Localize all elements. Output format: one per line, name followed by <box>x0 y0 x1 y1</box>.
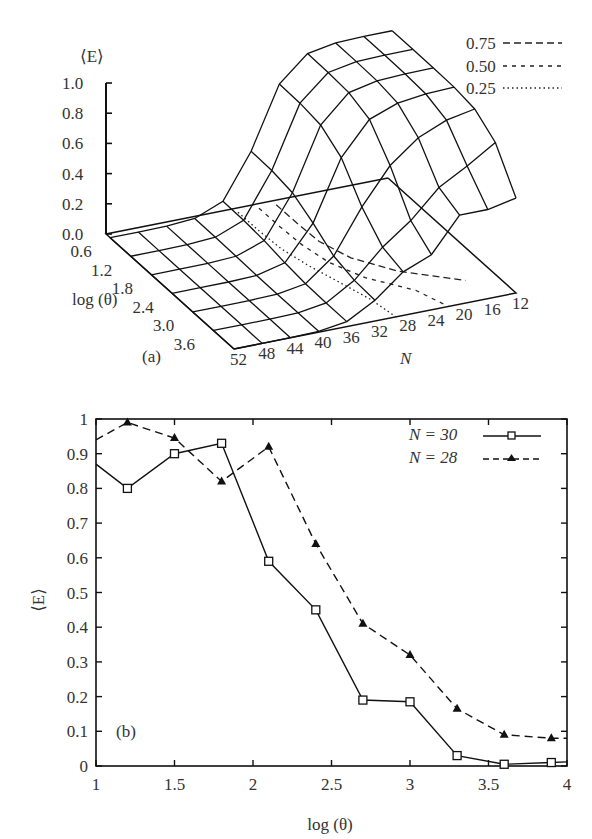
svg-text:4: 4 <box>563 775 572 794</box>
data-series <box>96 417 567 768</box>
svg-text:0.9: 0.9 <box>67 445 88 464</box>
plot-frame <box>96 419 567 766</box>
legend-label-n30: N = 30 <box>408 425 458 444</box>
line-chart-panel-b: 00.10.20.30.40.50.60.70.80.91 11.522.533… <box>0 0 592 839</box>
svg-text:0.7: 0.7 <box>67 514 89 533</box>
svg-text:0.6: 0.6 <box>67 549 88 568</box>
svg-text:0.3: 0.3 <box>67 653 88 672</box>
svg-text:3.5: 3.5 <box>478 775 499 794</box>
svg-text:0.5: 0.5 <box>67 584 88 603</box>
svg-text:2.5: 2.5 <box>321 775 342 794</box>
panel-b-label: (b) <box>116 722 136 741</box>
svg-text:3: 3 <box>406 775 415 794</box>
svg-text:0.1: 0.1 <box>67 722 88 741</box>
svg-text:1: 1 <box>80 410 89 429</box>
legend-label-n28: N = 28 <box>408 448 458 467</box>
svg-text:1: 1 <box>92 775 101 794</box>
x-axis-title: log (θ) <box>307 815 352 834</box>
svg-text:2: 2 <box>249 775 258 794</box>
y-axis-title: ⟨E⟩ <box>29 588 48 612</box>
svg-text:0.2: 0.2 <box>67 688 88 707</box>
y-axis-ticks: 00.10.20.30.40.50.60.70.80.91 <box>67 410 567 776</box>
triangle-marker-icon <box>507 454 516 461</box>
series-legend: N = 30 N = 28 <box>408 425 541 467</box>
svg-text:0.8: 0.8 <box>67 479 88 498</box>
svg-text:1.5: 1.5 <box>164 775 185 794</box>
square-marker-icon <box>508 432 515 439</box>
svg-text:0: 0 <box>80 757 89 776</box>
svg-text:0.4: 0.4 <box>67 618 89 637</box>
